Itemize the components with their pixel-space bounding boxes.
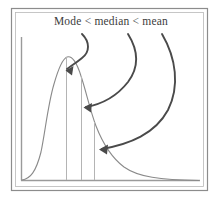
median-label: median [94,15,129,27]
less-than-operator-1: < [85,15,92,27]
figure-caption: Mode < median < mean [0,15,222,28]
figure-canvas [0,0,222,198]
less-than-operator-2: < [133,15,140,27]
mean-label: mean [142,15,168,27]
mode-label: Mode [54,15,82,27]
skewed-distribution-figure: Mode < median < mean [0,0,222,198]
